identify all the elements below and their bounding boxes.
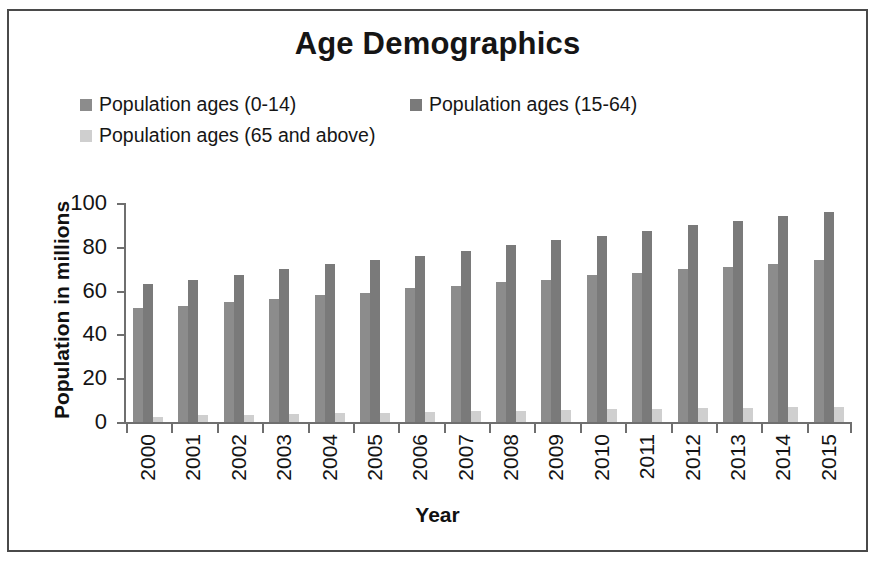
y-tick-mark: 40 (117, 334, 124, 336)
chart-figure: Age Demographics Population ages (0-14) … (0, 0, 875, 561)
y-tick-mark: 100 (117, 203, 124, 205)
legend-row-top: Population ages (0-14) Population ages (… (80, 92, 800, 123)
bar[interactable] (198, 415, 208, 422)
bar[interactable] (335, 413, 345, 422)
y-axis-title: Population in millions (50, 201, 74, 419)
bar-group (126, 203, 171, 422)
bar[interactable] (405, 288, 415, 422)
bar[interactable] (632, 273, 642, 422)
bar[interactable] (471, 411, 481, 422)
y-tick-label: 40 (83, 321, 107, 347)
x-tick-mark (807, 424, 852, 433)
x-tick-mark (716, 424, 761, 433)
bar-group (398, 203, 443, 422)
bar[interactable] (496, 282, 506, 422)
bar[interactable] (733, 221, 743, 422)
bar-group (807, 203, 852, 422)
bar-group (262, 203, 307, 422)
bar-group (671, 203, 716, 422)
x-tick-label: 2005 (363, 434, 387, 481)
x-axis-title: Year (0, 503, 875, 527)
x-tick-label: 2000 (136, 434, 160, 481)
bar[interactable] (451, 286, 461, 422)
bar[interactable] (834, 407, 844, 422)
x-tick-label: 2012 (681, 434, 705, 481)
bar[interactable] (516, 411, 526, 422)
x-tick-mark (580, 424, 625, 433)
x-tick-mark (262, 424, 307, 433)
bar[interactable] (551, 240, 561, 422)
bar[interactable] (824, 212, 834, 422)
chart-legend: Population ages (0-14) Population ages (… (80, 92, 800, 154)
plot-area: Population in millions 020406080100 (124, 203, 852, 424)
bar[interactable] (561, 410, 571, 422)
x-axis-labels: 2000200120022003200420052006200720082009… (126, 434, 852, 496)
bar[interactable] (607, 409, 617, 422)
bar[interactable] (688, 225, 698, 422)
bar-group (217, 203, 262, 422)
bar[interactable] (279, 269, 289, 422)
x-tick-mark (171, 424, 216, 433)
x-tick-label: 2006 (408, 434, 432, 481)
x-label-cell: 2014 (761, 434, 806, 496)
bar[interactable] (743, 408, 753, 422)
x-label-cell: 2015 (807, 434, 852, 496)
x-tick-label: 2008 (499, 434, 523, 481)
x-tick-label: 2007 (454, 434, 478, 481)
bar-group (716, 203, 761, 422)
bar[interactable] (143, 284, 153, 422)
bar[interactable] (153, 417, 163, 422)
bar[interactable] (289, 414, 299, 422)
x-tick-label: 2015 (817, 434, 841, 481)
bar[interactable] (698, 408, 708, 422)
x-label-cell: 2002 (217, 434, 262, 496)
bar[interactable] (133, 308, 143, 422)
bar[interactable] (370, 260, 380, 422)
x-label-cell: 2000 (126, 434, 171, 496)
bar[interactable] (723, 267, 733, 422)
bar[interactable] (597, 236, 607, 422)
x-label-cell: 2011 (625, 434, 670, 496)
bar[interactable] (678, 269, 688, 422)
bar[interactable] (506, 245, 516, 422)
bar[interactable] (269, 299, 279, 422)
bar[interactable] (788, 407, 798, 422)
y-tick-mark: 60 (117, 291, 124, 293)
x-label-cell: 2006 (398, 434, 443, 496)
bar[interactable] (814, 260, 824, 422)
bar[interactable] (541, 280, 551, 422)
x-tick-label: 2004 (318, 434, 342, 481)
bar[interactable] (178, 306, 188, 422)
bar[interactable] (652, 409, 662, 422)
x-label-cell: 2001 (171, 434, 216, 496)
x-label-cell: 2013 (716, 434, 761, 496)
legend-label-0-14: Population ages (0-14) (99, 95, 296, 115)
bar[interactable] (415, 256, 425, 422)
y-tick-mark: 0 (117, 422, 124, 424)
bar[interactable] (425, 412, 435, 422)
bar[interactable] (587, 275, 597, 422)
bar[interactable] (768, 264, 778, 422)
legend-item-15-64[interactable]: Population ages (15-64) (410, 92, 637, 118)
bar[interactable] (380, 413, 390, 422)
bar[interactable] (360, 293, 370, 422)
bar[interactable] (224, 302, 234, 422)
bar[interactable] (234, 275, 244, 422)
legend-item-0-14[interactable]: Population ages (0-14) (80, 92, 410, 118)
bar[interactable] (188, 280, 198, 422)
bar[interactable] (244, 415, 254, 422)
legend-item-65-above[interactable]: Population ages (65 and above) (80, 123, 375, 149)
y-tick-label: 20 (83, 365, 107, 391)
x-tick-mark (444, 424, 489, 433)
bar[interactable] (778, 216, 788, 422)
legend-label-65-above: Population ages (65 and above) (99, 126, 375, 146)
x-label-cell: 2007 (444, 434, 489, 496)
x-label-cell: 2003 (262, 434, 307, 496)
bar[interactable] (325, 264, 335, 422)
x-label-cell: 2008 (489, 434, 534, 496)
bar[interactable] (315, 295, 325, 422)
bar[interactable] (461, 251, 471, 422)
bar-group (534, 203, 579, 422)
bar[interactable] (642, 231, 652, 422)
x-label-cell: 2005 (353, 434, 398, 496)
